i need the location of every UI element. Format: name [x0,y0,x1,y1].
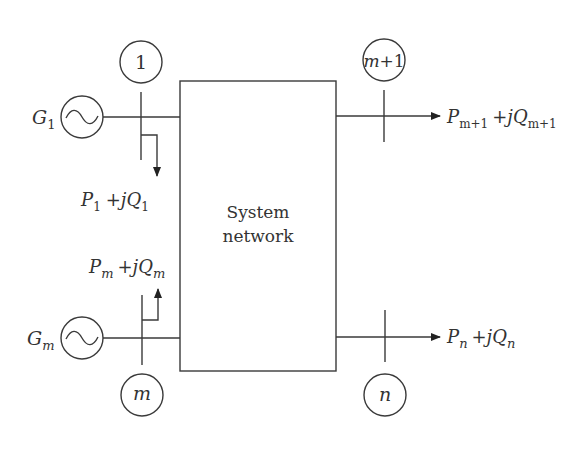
injection-arrow-bus-m [142,289,158,320]
power-system-diagram: System network G1 1 P1+jQ1 Gm m Pm+jQm m… [0,0,576,452]
bus-1-label: 1 [135,51,147,73]
system-network-box: System network [180,81,336,371]
generator-gm-label: Gm [27,327,55,353]
bus-n-label: n [379,383,391,405]
bus-n-node: n [364,374,406,416]
bus-1-node: 1 [120,41,162,83]
generator-g1: G1 [32,96,103,138]
bus-m-label: m [133,382,151,404]
flow-label-bus-m-plus-1: Pm+1+jQm+1 [446,106,557,131]
flow-label-bus-m: Pm+jQm [88,256,165,281]
generator-gm: Gm [27,317,103,359]
bus-m-node: m [121,374,163,416]
network-label-line1: System [227,202,290,222]
flow-label-bus-1: P1+jQ1 [80,189,149,214]
generator-g1-label: G1 [32,106,55,132]
load-arrow-bus-1 [141,135,157,176]
bus-m-plus-1-label: m+1 [363,51,404,71]
network-label-line2: network [222,226,294,246]
flow-label-bus-n: Pn+jQn [446,326,515,351]
bus-m-plus-1-node: m+1 [363,39,405,81]
